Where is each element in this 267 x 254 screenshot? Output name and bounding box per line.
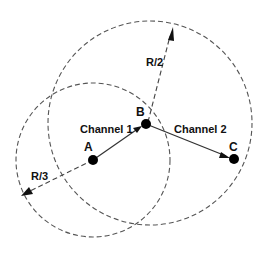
node-a-label: A xyxy=(84,140,93,154)
node-a xyxy=(88,155,98,165)
radius-b-label: R/2 xyxy=(146,56,163,68)
channel-1-label: Channel 1 xyxy=(80,123,133,135)
radius-b-arrowhead-icon xyxy=(168,27,174,41)
node-c-label: C xyxy=(229,140,238,154)
channel-2-label: Channel 2 xyxy=(174,123,227,135)
network-range-diagram: A B C Channel 1 Channel 2 R/2 R/3 xyxy=(0,0,267,254)
node-b xyxy=(141,119,151,129)
node-c xyxy=(229,154,239,164)
node-b-label: B xyxy=(136,105,145,119)
radius-a-label: R/3 xyxy=(31,170,48,182)
radius-b-indicator xyxy=(148,27,174,122)
